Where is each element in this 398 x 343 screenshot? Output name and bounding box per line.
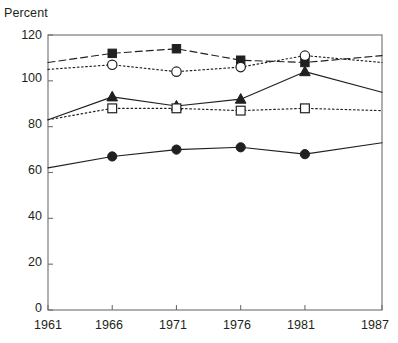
series-dotted-open-square-marker xyxy=(172,104,181,113)
series-dotted-open-circle-marker xyxy=(172,67,181,76)
series-solid-filled-circle-marker xyxy=(108,152,117,161)
axis-frame xyxy=(48,35,382,310)
series-dotted-open-circle-marker xyxy=(108,60,117,69)
series-dotted-open-square-marker xyxy=(236,106,245,115)
series-dotted-open-circle-marker xyxy=(300,51,309,60)
series-dotted-open-square-line xyxy=(48,108,382,119)
series-solid-filled-circle-marker xyxy=(300,150,309,159)
series-dashed-filled-square-marker xyxy=(172,45,180,53)
series-dashed-filled-square-marker xyxy=(108,49,116,57)
series-dotted-open-circle-line xyxy=(48,56,382,72)
chart-container: Percent 120 100 80 60 40 20 0 1961 1966 … xyxy=(0,0,398,343)
series-dashed-filled-square-line xyxy=(48,49,382,63)
series-solid-filled-circle-line xyxy=(48,143,382,168)
series-solid-filled-circle-marker xyxy=(236,143,245,152)
axis-ticks xyxy=(48,35,382,310)
series-solid-filled-triangle-line xyxy=(48,72,382,120)
series-solid-filled-triangle-marker xyxy=(235,94,246,104)
series-dotted-open-square-marker xyxy=(108,104,117,113)
series-solid-filled-circle-marker xyxy=(172,145,181,154)
data-series-layer xyxy=(48,45,382,168)
series-solid-filled-triangle-marker xyxy=(300,66,311,76)
series-dotted-open-square-marker xyxy=(301,104,310,113)
plot-area xyxy=(0,0,398,343)
series-dotted-open-circle-marker xyxy=(236,62,245,71)
series-solid-filled-triangle-marker xyxy=(107,91,118,101)
